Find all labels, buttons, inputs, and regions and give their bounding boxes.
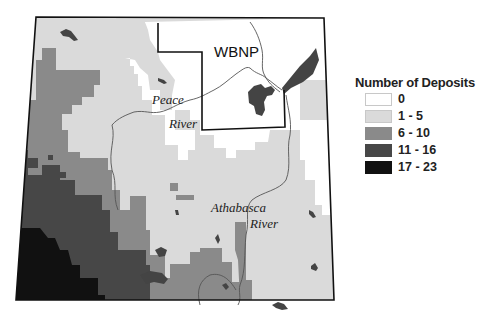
lake-south1 <box>272 302 288 310</box>
legend-title: Number of Deposits <box>355 75 493 90</box>
legend-label: 6 - 10 <box>398 126 430 140</box>
region-6-10-patch <box>176 195 194 200</box>
athabasca-river-label-2: River <box>250 216 278 232</box>
legend-swatch <box>365 93 392 106</box>
region-11-16-patch <box>60 172 66 178</box>
legend-label: 11 - 16 <box>398 143 436 157</box>
legend-item: 1 - 5 <box>355 108 493 124</box>
athabasca-river-label: Athabasca <box>211 200 266 216</box>
legend-item: 0 <box>355 91 493 107</box>
legend: Number of Deposits 0 1 - 5 6 - 10 11 - 1… <box>355 75 493 175</box>
legend-swatch <box>365 144 392 157</box>
legend-label: 0 <box>398 92 405 106</box>
legend-label: 17 - 23 <box>398 160 437 174</box>
legend-item: 17 - 23 <box>355 159 493 175</box>
region-6-10-patch <box>170 183 178 191</box>
legend-label: 1 - 5 <box>398 109 423 123</box>
legend-swatch <box>365 110 392 123</box>
region-11-16-patch <box>48 155 53 160</box>
wbnp-label: WBNP <box>214 43 259 60</box>
legend-swatch <box>365 161 392 174</box>
peace-river-label: Peace <box>152 92 184 108</box>
legend-swatch <box>365 127 392 140</box>
peace-river-label-2: River <box>169 116 197 132</box>
legend-item: 11 - 16 <box>355 142 493 158</box>
region-11-16-patch <box>28 158 38 168</box>
legend-item: 6 - 10 <box>355 125 493 141</box>
